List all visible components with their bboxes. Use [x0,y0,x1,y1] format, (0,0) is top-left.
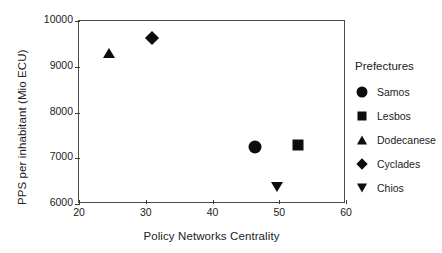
legend: Prefectures SamosLesbosDodecaneseCyclade… [355,60,442,203]
x-axis-title: Policy Networks Centrality [78,230,345,242]
legend-item-lesbos[interactable]: Lesbos [355,107,442,125]
y-tick-mark [75,21,80,22]
legend-item-label: Samos [377,86,410,98]
x-tick-mark [146,200,147,204]
legend-item-chios[interactable]: Chios [355,179,442,197]
legend-title: Prefectures [355,60,442,72]
plot-area: 600070008000900010000 2030405060 [78,20,345,203]
y-tick-label: 8000 [50,105,73,117]
legend-items: SamosLesbosDodecaneseCycladesChios [355,83,442,197]
legend-item-label: Lesbos [377,110,411,122]
data-point-samos [249,140,262,153]
data-point-chios [271,182,283,192]
y-tick-mark [75,113,80,114]
diamond-marker-icon [355,157,369,171]
x-tick-label: 40 [193,206,233,218]
x-tick-label: 30 [126,206,166,218]
square-marker-icon [355,109,369,123]
y-tick-mark [75,204,80,205]
legend-item-dodecanese[interactable]: Dodecanese [355,131,442,149]
legend-item-cyclades[interactable]: Cyclades [355,155,442,173]
data-point-cyclades [145,31,159,45]
data-point-lesbos [292,140,303,151]
triangle-down-marker-icon [355,181,369,195]
triangle-up-marker-icon [355,133,369,147]
x-tick-mark [346,200,347,204]
legend-item-label: Dodecanese [377,134,436,146]
x-tick-mark [279,200,280,204]
y-tick-mark [75,158,80,159]
y-axis-title: PPS per inhabitant (Mio ECU) [14,5,30,205]
x-tick-mark [213,200,214,204]
legend-item-samos[interactable]: Samos [355,83,442,101]
y-tick-label: 7000 [50,150,73,162]
y-tick-mark [75,67,80,68]
y-tick-label: 10000 [44,13,73,25]
y-tick-label: 9000 [50,59,73,71]
data-point-dodecanese [103,48,115,58]
legend-item-label: Chios [377,182,404,194]
x-tick-label: 20 [59,206,99,218]
circle-marker-icon [355,85,369,99]
scatter-chart: PPS per inhabitant (Mio ECU) 60007000800… [0,0,442,253]
legend-item-label: Cyclades [377,158,420,170]
x-tick-label: 50 [259,206,299,218]
x-tick-mark [79,200,80,204]
x-tick-label: 60 [326,206,366,218]
